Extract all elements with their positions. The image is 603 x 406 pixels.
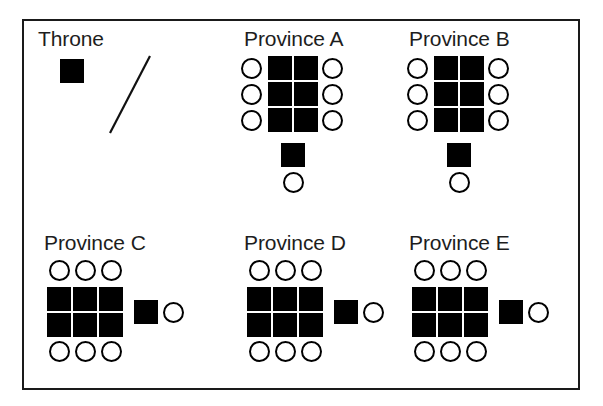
province-b-circle-2 [407, 84, 428, 105]
province-a-circle-1 [322, 58, 343, 79]
province-b-square-1 [460, 56, 484, 80]
province-b-circle-4 [407, 110, 428, 131]
province-b-square-0 [434, 56, 458, 80]
province-e-circle-3 [414, 341, 435, 362]
province-a-square-2 [268, 82, 292, 106]
province-a-circle-2 [241, 84, 262, 105]
province-e-square-6 [499, 300, 523, 324]
province-d-circle-4 [275, 341, 296, 362]
province-c-circle-5 [101, 341, 122, 362]
province-a-circle-6 [283, 172, 304, 193]
province-c-circle-3 [49, 341, 70, 362]
province-b-square-2 [434, 82, 458, 106]
province-d-circle-3 [249, 341, 270, 362]
province-c-label: Province C [44, 232, 146, 253]
province-d-circle-1 [275, 260, 296, 281]
province-b-circle-6 [449, 172, 470, 193]
province-d-square-3 [247, 313, 271, 337]
province-d-square-4 [273, 313, 297, 337]
province-e-circle-1 [440, 260, 461, 281]
province-e-label: Province E [409, 232, 510, 253]
province-d-square-6 [334, 300, 358, 324]
province-d-circle-5 [301, 341, 322, 362]
province-a-square-1 [294, 56, 318, 80]
province-b-square-6 [447, 143, 471, 167]
province-b-circle-3 [488, 84, 509, 105]
province-b-square-4 [434, 108, 458, 132]
diagram-canvas: ThroneProvince AProvince BProvince CProv… [0, 0, 603, 406]
province-c-circle-1 [75, 260, 96, 281]
province-a-square-6 [281, 143, 305, 167]
province-a-circle-3 [322, 84, 343, 105]
province-e-square-0 [412, 287, 436, 311]
province-c-square-0 [47, 287, 71, 311]
province-e-circle-4 [440, 341, 461, 362]
province-a-square-5 [294, 108, 318, 132]
province-e-circle-2 [466, 260, 487, 281]
province-d-label: Province D [244, 232, 346, 253]
province-d-square-1 [273, 287, 297, 311]
province-e-circle-0 [414, 260, 435, 281]
province-e-square-2 [464, 287, 488, 311]
province-c-square-2 [99, 287, 123, 311]
province-c-circle-6 [163, 302, 184, 323]
province-d-square-5 [299, 313, 323, 337]
province-c-square-3 [47, 313, 71, 337]
province-a-square-0 [268, 56, 292, 80]
province-d-circle-0 [249, 260, 270, 281]
province-b-circle-0 [407, 58, 428, 79]
province-a-square-4 [268, 108, 292, 132]
province-a-label: Province A [244, 28, 343, 49]
province-c-circle-2 [101, 260, 122, 281]
province-e-square-3 [412, 313, 436, 337]
province-e-circle-6 [528, 302, 549, 323]
province-b-circle-1 [488, 58, 509, 79]
province-e-square-4 [438, 313, 462, 337]
province-a-square-3 [294, 82, 318, 106]
province-d-square-0 [247, 287, 271, 311]
province-d-square-2 [299, 287, 323, 311]
province-c-square-5 [99, 313, 123, 337]
province-a-circle-0 [241, 58, 262, 79]
province-c-square-1 [73, 287, 97, 311]
province-c-circle-0 [49, 260, 70, 281]
province-e-square-1 [438, 287, 462, 311]
province-d-circle-6 [363, 302, 384, 323]
province-a-circle-5 [322, 110, 343, 131]
province-c-circle-4 [75, 341, 96, 362]
province-c-square-4 [73, 313, 97, 337]
province-d-circle-2 [301, 260, 322, 281]
province-c-square-6 [134, 300, 158, 324]
province-e-square-5 [464, 313, 488, 337]
province-b-label: Province B [409, 28, 510, 49]
province-e-circle-5 [466, 341, 487, 362]
province-b-circle-5 [488, 110, 509, 131]
province-a-circle-4 [241, 110, 262, 131]
province-b-square-3 [460, 82, 484, 106]
province-b-square-5 [460, 108, 484, 132]
